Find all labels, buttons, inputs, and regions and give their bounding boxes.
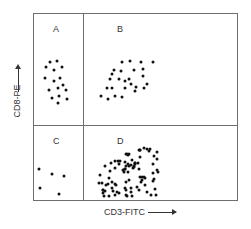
y-axis-label: CD8-PE (12, 76, 22, 126)
data-point-d (136, 186, 139, 189)
data-point-b (134, 90, 137, 93)
data-point-b (124, 80, 127, 83)
data-point-a (65, 89, 68, 92)
data-point-b (100, 95, 103, 98)
x-axis-arrow-icon (148, 212, 176, 213)
data-point-b (128, 78, 131, 81)
data-point-d (141, 179, 144, 182)
data-point-d (130, 191, 133, 194)
data-point-d (118, 163, 121, 166)
data-point-d (98, 182, 101, 185)
data-point-d (139, 149, 142, 152)
data-point-d (122, 169, 125, 172)
data-point-d (144, 184, 147, 187)
data-point-d (156, 158, 159, 161)
data-point-a (49, 61, 52, 64)
data-point-d (111, 187, 114, 190)
data-point-d (114, 160, 117, 163)
data-point-a (57, 87, 60, 90)
data-point-c (51, 173, 54, 176)
data-point-b (114, 95, 117, 98)
data-point-d (131, 195, 134, 198)
data-point-b (120, 70, 123, 73)
data-point-d (114, 194, 117, 197)
data-point-d (143, 147, 146, 150)
data-point-d (154, 188, 157, 191)
data-point-a (59, 77, 62, 80)
data-point-b (106, 87, 109, 90)
data-point-d (128, 179, 131, 182)
data-point-d (111, 181, 114, 184)
data-point-d (109, 170, 112, 173)
data-point-d (104, 190, 107, 193)
data-point-b (140, 61, 143, 64)
data-point-b (143, 87, 146, 90)
data-point-b (146, 83, 149, 86)
data-point-d (114, 167, 117, 170)
data-point-d (116, 191, 119, 194)
data-point-d (128, 165, 131, 168)
data-point-b (121, 61, 124, 64)
data-point-b (109, 78, 112, 81)
data-point-a (62, 84, 65, 87)
data-point-a (57, 102, 60, 105)
data-point-d (114, 183, 117, 186)
data-point-b (142, 75, 145, 78)
data-point-d (110, 162, 113, 165)
data-point-d (125, 189, 128, 192)
data-point-d (99, 174, 102, 177)
data-point-d (127, 171, 130, 174)
data-point-d (133, 166, 136, 169)
data-point-c (38, 168, 41, 171)
data-point-a (48, 89, 51, 92)
data-point-c (39, 187, 42, 190)
data-point-d (104, 165, 107, 168)
data-point-b (133, 69, 136, 72)
data-point-b (152, 61, 155, 64)
data-point-d (134, 162, 137, 165)
data-point-b (121, 96, 124, 99)
data-point-a (45, 66, 48, 69)
data-point-d (108, 195, 111, 198)
data-point-d (138, 168, 141, 171)
data-point-a (51, 97, 54, 100)
data-point-a (58, 95, 61, 98)
data-point-c (63, 175, 66, 178)
data-point-d (112, 190, 115, 193)
data-point-d (125, 181, 128, 184)
data-point-d (101, 182, 104, 185)
data-point-d (155, 194, 158, 197)
data-point-b (107, 98, 110, 101)
data-point-b (111, 87, 114, 90)
data-point-d (153, 155, 156, 158)
data-point-c (58, 193, 61, 196)
data-point-d (152, 163, 155, 166)
data-point-b (124, 87, 127, 90)
data-point-d (137, 162, 140, 165)
data-point-d (152, 172, 155, 175)
data-point-d (130, 187, 133, 190)
data-point-d (148, 150, 151, 153)
data-point-b (135, 86, 138, 89)
data-point-a (44, 77, 47, 80)
data-point-b (142, 68, 145, 71)
scatter-points (0, 0, 251, 229)
data-point-d (108, 177, 111, 180)
data-point-d (156, 169, 159, 172)
data-point-d (124, 161, 127, 164)
data-point-d (156, 151, 159, 154)
data-point-d (139, 156, 142, 159)
data-point-d (105, 184, 108, 187)
x-axis-label: CD3-FITC (104, 207, 145, 217)
data-point-b (113, 69, 116, 72)
data-point-d (117, 160, 120, 163)
data-point-b (130, 83, 133, 86)
data-point-d (126, 195, 129, 198)
data-point-d (146, 191, 149, 194)
data-point-d (138, 189, 141, 192)
data-point-d (150, 194, 153, 197)
data-point-d (127, 154, 130, 157)
y-axis-arrow-icon (18, 66, 19, 92)
data-point-a (66, 98, 69, 101)
data-point-b (118, 78, 121, 81)
